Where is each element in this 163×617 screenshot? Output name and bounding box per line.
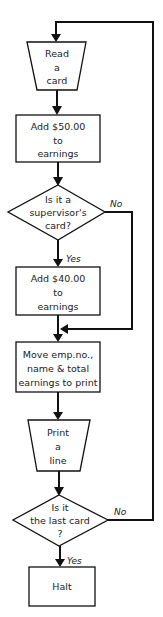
node-move-line-1: Move emp.no., (23, 349, 93, 360)
node-halt: Halt (29, 567, 95, 606)
flowchart: No Read a card Add $50.00 to earnings Is… (0, 0, 163, 617)
node-last-card-line-2: the last card (30, 515, 90, 526)
arrowhead-icon (55, 559, 65, 567)
arrowhead-icon (53, 334, 63, 342)
node-move-data: Move emp.no., name & total earnings to p… (16, 342, 100, 392)
node-supervisor-line-2: supervisor's (29, 207, 86, 218)
node-print-line-1: Print (47, 427, 69, 438)
node-add-40-line-3: earnings (37, 301, 78, 312)
arrowhead-icon (52, 106, 62, 115)
node-print-line: Print a line (28, 420, 90, 471)
node-supervisor-check: Is it a supervisor's card? (8, 185, 105, 240)
arrowhead-icon (53, 412, 63, 420)
node-last-card-line-1: Is it (51, 502, 68, 513)
node-add-40: Add $40.00 to earnings (16, 267, 100, 315)
node-last-card-check: Is it the last card ? (13, 495, 108, 546)
node-read-card-line-3: card (47, 75, 68, 86)
edge-label-yes-supervisor: Yes (66, 254, 81, 264)
node-read-card-line-2: a (54, 62, 60, 73)
node-add-40-line-2: to (53, 287, 63, 298)
node-add-50-line-2: to (53, 135, 63, 146)
arrowhead-icon (51, 34, 61, 42)
edge-label-no-supervisor: No (110, 199, 123, 209)
node-read-card: Read a card (27, 42, 86, 90)
node-add-40-line-1: Add $40.00 (31, 273, 86, 284)
node-last-card-line-3: ? (57, 528, 62, 539)
edge-label-no-last-card: No (114, 507, 127, 517)
node-read-card-line-1: Read (45, 48, 69, 59)
connector-print-to-decision (54, 471, 64, 496)
node-add-50-line-1: Add $50.00 (31, 121, 86, 132)
node-supervisor-line-1: Is it a (45, 194, 71, 205)
node-halt-label: Halt (52, 581, 72, 592)
node-print-line-3: line (49, 455, 66, 466)
node-add-50-line-3: earnings (37, 148, 78, 159)
arrowhead-icon (53, 259, 63, 267)
edge-label-yes-last-card: Yes (67, 556, 82, 566)
node-move-line-2: name & total (27, 363, 89, 374)
connector-supervisor-yes: Yes (53, 240, 81, 267)
node-print-line-2: a (55, 441, 61, 452)
node-move-line-3: earnings to print (19, 377, 98, 388)
node-supervisor-line-3: card? (45, 220, 71, 231)
arrowhead-icon (60, 324, 68, 334)
connector-last-card-yes: Yes (55, 546, 82, 567)
connector-add50-to-decision (53, 162, 63, 186)
connector-move-to-print (53, 392, 63, 420)
node-add-50: Add $50.00 to earnings (16, 115, 100, 162)
connector-read-to-add50 (52, 90, 62, 115)
